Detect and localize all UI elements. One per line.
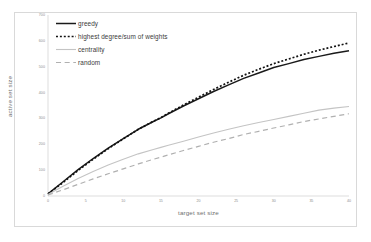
x-tick-label: 35: [309, 199, 313, 203]
x-tick-label: 30: [272, 199, 276, 203]
x-tick-label: 5: [85, 199, 87, 203]
y-axis-title: active set size: [6, 62, 13, 132]
legend-item[interactable]: greedy: [55, 17, 245, 30]
legend-line-icon: [55, 19, 77, 28]
y-axis-tick-labels: 7006005004003002001000: [30, 15, 45, 196]
x-tick-label: 25: [234, 199, 238, 203]
legend-item-label: highest degree/sum of weights: [77, 33, 168, 40]
series-line-0: [48, 51, 349, 194]
x-axis-tick-labels: 0510152025303540: [48, 199, 349, 207]
x-tick-label: 0: [47, 199, 49, 203]
y-tick-label: 500: [39, 65, 45, 69]
y-tick-label: 600: [39, 39, 45, 43]
series-line-2: [48, 107, 349, 195]
x-tick-label: 20: [197, 199, 201, 203]
legend-item-label: random: [77, 59, 100, 66]
chart-legend: greedyhighest degree/sum of weightscentr…: [55, 17, 245, 69]
legend-item[interactable]: highest degree/sum of weights: [55, 30, 245, 43]
series-line-3: [48, 114, 349, 195]
legend-line-icon: [55, 45, 77, 54]
legend-item[interactable]: centrality: [55, 43, 245, 56]
y-tick-label: 700: [39, 13, 45, 17]
y-tick-label: 400: [39, 91, 45, 95]
legend-line-icon: [55, 32, 77, 41]
x-axis-title: target set size: [48, 209, 349, 216]
x-tick-label: 15: [159, 199, 163, 203]
x-tick-label: 10: [121, 199, 125, 203]
y-tick-label: 0: [43, 194, 45, 198]
x-tick-label: 40: [347, 199, 351, 203]
chart-figure: 7006005004003002001000 0510152025303540 …: [0, 0, 371, 242]
legend-item-label: centrality: [77, 46, 105, 53]
legend-item-label: greedy: [77, 20, 98, 27]
legend-item[interactable]: random: [55, 56, 245, 69]
legend-line-icon: [55, 58, 77, 67]
y-tick-label: 300: [39, 116, 45, 120]
y-tick-label: 100: [39, 168, 45, 172]
y-tick-label: 200: [39, 142, 45, 146]
